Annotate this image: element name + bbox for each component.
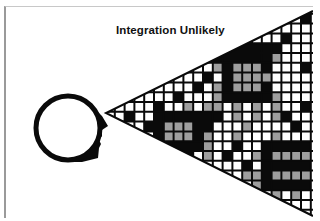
gray-cell — [203, 151, 213, 161]
black-cell — [154, 141, 164, 151]
gray-cell — [232, 82, 242, 92]
black-cell — [183, 112, 193, 122]
gray-cell — [183, 122, 193, 132]
gray-cell — [262, 73, 272, 83]
black-cell — [301, 161, 311, 171]
gray-cell — [242, 82, 252, 92]
black-cell — [301, 141, 311, 151]
black-cell — [301, 180, 311, 190]
black-cell — [301, 102, 311, 112]
gray-cell — [213, 92, 223, 102]
gray-cell — [164, 131, 174, 141]
black-cell — [193, 82, 203, 92]
black-cell — [232, 141, 242, 151]
black-cell — [272, 141, 282, 151]
black-cell — [262, 63, 272, 73]
black-cell — [291, 122, 301, 132]
black-cell — [252, 92, 262, 102]
black-cell — [154, 151, 164, 161]
gray-cell — [281, 171, 291, 181]
black-cell — [183, 141, 193, 151]
black-cell — [154, 102, 164, 112]
black-cell — [291, 180, 301, 190]
gray-cell — [301, 171, 311, 181]
gray-cell — [252, 73, 262, 83]
gray-cell — [213, 63, 223, 73]
black-cell — [262, 161, 272, 171]
black-cell — [134, 131, 144, 141]
black-cell — [223, 63, 233, 73]
black-cell — [174, 92, 184, 102]
gray-cell — [183, 131, 193, 141]
black-cell — [301, 63, 311, 73]
black-cell — [193, 112, 203, 122]
black-cell — [154, 112, 164, 122]
black-cell — [144, 122, 154, 132]
black-cell — [164, 112, 174, 122]
black-cell — [203, 112, 213, 122]
gray-cell — [252, 151, 262, 161]
black-cell — [242, 92, 252, 102]
black-cell — [281, 33, 291, 43]
black-cell — [223, 73, 233, 83]
gray-cell — [272, 102, 282, 112]
black-cell — [193, 122, 203, 132]
pixel-grid — [105, 0, 320, 221]
gray-cell — [203, 102, 213, 112]
gray-cell — [252, 82, 262, 92]
black-cell — [174, 112, 184, 122]
gray-cell — [164, 122, 174, 132]
gray-cell — [301, 151, 311, 161]
black-cell — [203, 171, 213, 181]
black-cell — [232, 53, 242, 63]
black-cell — [223, 180, 233, 190]
black-cell — [242, 161, 252, 171]
gray-cell — [281, 151, 291, 161]
gray-cell — [232, 73, 242, 83]
gray-cell — [174, 122, 184, 132]
gray-cell — [242, 63, 252, 73]
gray-cell — [291, 151, 301, 161]
black-cell — [281, 141, 291, 151]
black-cell — [252, 53, 262, 63]
black-cell — [262, 141, 272, 151]
black-cell — [223, 92, 233, 102]
black-cell — [193, 131, 203, 141]
gray-cell — [213, 102, 223, 112]
black-cell — [193, 141, 203, 151]
gray-cell — [242, 73, 252, 83]
black-cell — [125, 112, 135, 122]
black-cell — [291, 161, 301, 171]
black-cell — [262, 43, 272, 53]
black-cell — [291, 141, 301, 151]
gray-cell — [252, 112, 262, 122]
vision-cone-diagram — [0, 0, 320, 221]
black-cell — [262, 200, 272, 210]
black-cell — [232, 92, 242, 102]
gray-cell — [272, 151, 282, 161]
black-cell — [281, 180, 291, 190]
black-cell — [252, 43, 262, 53]
gray-cell — [183, 102, 193, 112]
gray-cell — [252, 63, 262, 73]
gray-cell — [272, 53, 282, 63]
gray-cell — [203, 131, 213, 141]
black-cell — [242, 53, 252, 63]
black-cell — [272, 43, 282, 53]
gray-cell — [232, 112, 242, 122]
black-cell — [281, 161, 291, 171]
black-cell — [203, 122, 213, 132]
black-cell — [281, 112, 291, 122]
gray-cell — [183, 161, 193, 171]
black-cell — [223, 151, 233, 161]
black-cell — [223, 82, 233, 92]
black-cell — [272, 180, 282, 190]
gray-cell — [272, 92, 282, 102]
black-cell — [272, 161, 282, 171]
gray-cell — [252, 102, 262, 112]
gray-cell — [213, 82, 223, 92]
gray-cell — [291, 190, 301, 200]
gray-cell — [272, 131, 282, 141]
gray-cell — [291, 171, 301, 181]
gray-cell — [242, 171, 252, 181]
